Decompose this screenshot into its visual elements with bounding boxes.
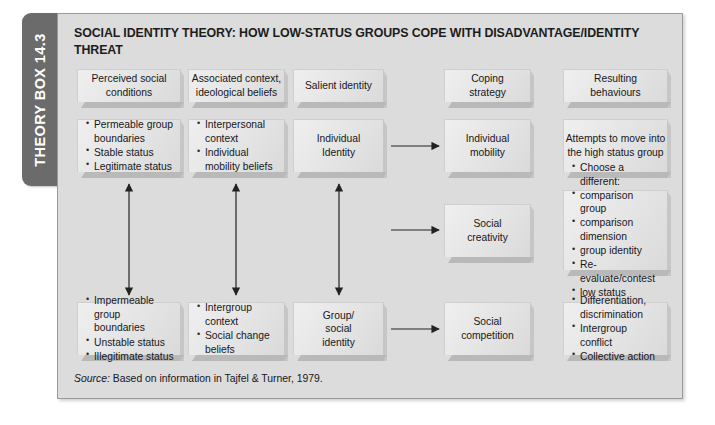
source-label: Source:: [74, 373, 110, 384]
theory-box-tab-label: THEORY BOX 14.3: [32, 33, 48, 166]
figure-panel: SOCIAL IDENTITY THEORY: HOW LOW-STATUS G…: [57, 13, 683, 399]
source-note: Source: Based on information in Tajfel &…: [74, 373, 323, 384]
theory-box-figure: THEORY BOX 14.3 SOCIAL IDENTITY THEORY: …: [0, 0, 715, 425]
theory-box-tab: THEORY BOX 14.3: [22, 13, 58, 186]
source-text: Based on information in Tajfel & Turner,…: [110, 373, 323, 384]
arrows-layer: [58, 14, 684, 400]
